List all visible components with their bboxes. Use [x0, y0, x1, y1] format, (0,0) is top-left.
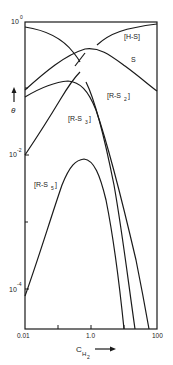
- svg-text:[H-S]: [H-S]: [124, 33, 140, 41]
- label-h-s: [H-S]: [124, 33, 140, 41]
- plot-frame: [25, 22, 157, 329]
- svg-text:2: 2: [124, 96, 127, 102]
- y-tick-label-4: 10 -4: [9, 281, 22, 293]
- label-r-s2: [R-S 2 ]: [107, 92, 130, 102]
- svg-text:5: 5: [51, 185, 54, 191]
- label-r-s3: [R-S 3 ]: [68, 115, 91, 125]
- svg-text:θ: θ: [11, 106, 16, 115]
- svg-text:H: H: [82, 351, 86, 357]
- svg-text:10: 10: [11, 18, 19, 25]
- svg-text:2: 2: [87, 354, 90, 360]
- svg-text:0: 0: [20, 14, 23, 20]
- curve-h-s-left: [25, 27, 80, 62]
- curve-cross-segment: [75, 53, 85, 66]
- y-tick-label-2: 10 -2: [9, 147, 22, 158]
- x-tick-label-1.0: 1.0: [86, 332, 95, 339]
- svg-text:[R-S: [R-S: [68, 115, 82, 123]
- svg-text:3: 3: [85, 119, 88, 125]
- svg-text:S: S: [131, 56, 136, 63]
- svg-text:]: ]: [128, 92, 130, 100]
- label-r-s5: [R-S 5 ]: [34, 181, 57, 191]
- label-s: S: [131, 56, 136, 63]
- svg-text:[R-S: [R-S: [34, 181, 48, 189]
- y-tick-label-0: 10 0: [11, 14, 23, 25]
- svg-text:]: ]: [89, 115, 91, 123]
- svg-text:-4: -4: [17, 281, 22, 287]
- y-axis-label: θ: [11, 87, 17, 115]
- curve-r-s3-tail: [86, 82, 135, 329]
- svg-text:10: 10: [9, 286, 17, 293]
- svg-text:[R-S: [R-S: [107, 92, 121, 100]
- svg-text:10: 10: [9, 151, 17, 158]
- svg-text:]: ]: [55, 181, 57, 189]
- chart: 10 0 10 -2 10 -4 0.01 1.0 100 θ C H 2: [0, 0, 173, 365]
- arrow-right-head-icon: [110, 347, 116, 352]
- x-tick-label-0.01: 0.01: [17, 332, 30, 339]
- curve-s: [25, 49, 157, 91]
- x-tick-label-100: 100: [152, 332, 163, 339]
- arrow-up-head-icon: [12, 87, 17, 93]
- x-axis-label: C H 2: [76, 345, 116, 360]
- svg-text:-2: -2: [17, 147, 22, 153]
